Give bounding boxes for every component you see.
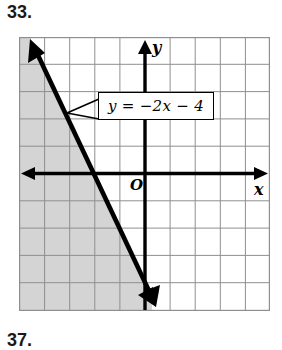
problem-number: 33. — [7, 2, 32, 23]
coordinate-graph — [19, 37, 270, 311]
equation-label-box: y = −2x − 4 — [98, 92, 214, 120]
equation-label-text: y = −2x − 4 — [108, 97, 204, 115]
x-axis-label: x — [254, 180, 264, 199]
origin-label: O — [130, 176, 143, 194]
next-problem-number: 37. — [7, 330, 32, 350]
y-axis-label: y — [152, 38, 161, 57]
